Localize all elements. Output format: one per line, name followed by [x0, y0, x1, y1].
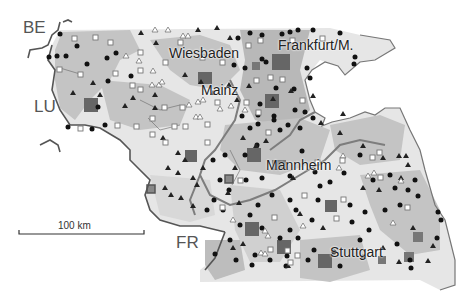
city-label-frankfurt: Frankfurt/M.	[278, 38, 353, 52]
city-label-wiesbaden: Wiesbaden	[169, 46, 239, 60]
country-label-lu: LU	[34, 98, 56, 115]
city-label-stuttgart: Stuttgart	[330, 245, 383, 259]
country-label-be: BE	[23, 19, 46, 36]
city-label-mainz: Mainz	[201, 83, 238, 97]
land-area	[48, 28, 455, 290]
city-label-mannheim: Mannheim	[266, 158, 331, 172]
country-label-fr: FR	[176, 234, 199, 251]
scale-bar-label: 100 km	[58, 221, 91, 231]
